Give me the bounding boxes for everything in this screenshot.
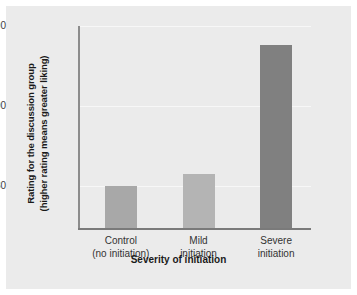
- y-axis-title-line1: Rating for the discussion group: [25, 29, 38, 239]
- bar-mild: [183, 174, 215, 228]
- bar-severe: [260, 45, 292, 228]
- gridline-100: [80, 26, 311, 27]
- y-tick-label-100: 100: [0, 21, 6, 31]
- y-axis-line: [78, 26, 80, 228]
- plot-area: 100 90 80 Control (no initiation) Mild i…: [78, 26, 311, 228]
- y-axis-title-line2: (higher rating means greater liking): [37, 29, 50, 239]
- x-axis-title: Severity of initiation: [6, 254, 351, 265]
- x-axis-line: [78, 228, 311, 230]
- y-tick-label-80: 80: [0, 181, 6, 191]
- y-axis-title: Rating for the discussion group (higher …: [25, 29, 50, 239]
- bar-control: [105, 186, 137, 228]
- x-category-label-severe-line1: Severe: [228, 234, 324, 247]
- y-tick-label-90: 90: [0, 101, 6, 111]
- chart-figure: Rating for the discussion group (higher …: [0, 0, 357, 295]
- figure-panel: Rating for the discussion group (higher …: [6, 6, 351, 289]
